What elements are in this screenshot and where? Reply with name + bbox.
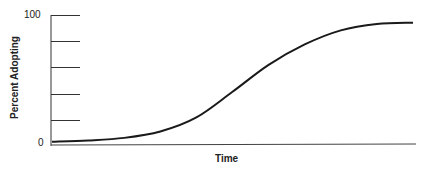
y-axis-label: Percent Adopting	[9, 28, 20, 128]
x-axis	[51, 144, 416, 145]
adoption-curve	[52, 23, 413, 142]
x-axis-label: Time	[215, 153, 238, 164]
y-tick-0: 0	[38, 137, 44, 148]
y-axis	[51, 15, 80, 146]
adoption-chart	[0, 0, 426, 176]
y-tick-100: 100	[24, 9, 41, 20]
